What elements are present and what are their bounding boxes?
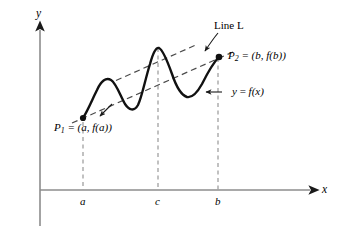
figure-canvas — [0, 0, 346, 234]
point-P1-label: P1 = (a, f(a)) — [54, 122, 112, 135]
secant-line-L — [72, 52, 233, 123]
tick-label-c: c — [155, 196, 160, 207]
y-axis-label: y — [36, 8, 41, 20]
point-P1-name: P — [54, 121, 61, 133]
vertical-guides-group — [83, 48, 218, 190]
line-L-label: Line L — [214, 20, 244, 31]
tick-label-b: b — [215, 196, 221, 207]
point-P1-coords: = (a, f(a)) — [65, 121, 112, 133]
function-label-expr: f(x) — [249, 85, 264, 97]
function-curve — [83, 48, 219, 118]
tick-label-a: a — [80, 196, 86, 207]
line-L-leader — [205, 33, 218, 51]
x-axis-label: x — [322, 184, 327, 196]
function-label: y = f(x) — [232, 86, 264, 97]
mean-value-theorem-figure: y x a c b Line L P2 = (b, f(b)) y = f(x)… — [0, 0, 346, 234]
point-P2-dot — [216, 54, 223, 61]
point-P2-name: P — [228, 49, 235, 61]
point-P2-label: P2 = (b, f(b)) — [228, 50, 286, 63]
point-P2-coords: = (b, f(b)) — [239, 49, 286, 61]
function-label-equals: = — [237, 85, 249, 97]
